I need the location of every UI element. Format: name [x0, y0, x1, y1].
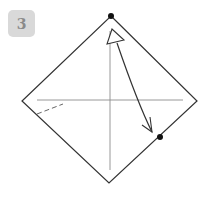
- fold-arrow-curve: [117, 43, 152, 132]
- target-point-dot: [157, 134, 163, 140]
- fold-diagram: [0, 0, 207, 199]
- valley-fold-dashed-line: [37, 104, 63, 114]
- top-point-dot: [108, 13, 114, 19]
